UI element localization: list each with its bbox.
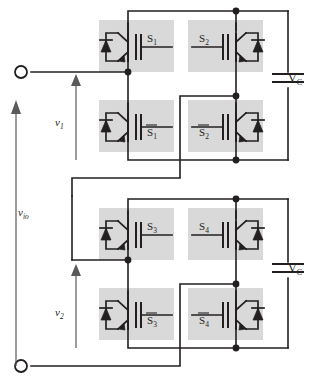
label-v1: v1 (55, 116, 64, 131)
node-lower-left-output (125, 257, 132, 264)
node-upper-right-bottom (233, 157, 240, 164)
node-upper-left-output (125, 69, 132, 76)
node-upper-right-top (233, 8, 240, 15)
v1-arrow-head (71, 74, 81, 86)
node-lower-right-top (233, 196, 240, 203)
node-upper-right-output (233, 93, 240, 100)
output-terminal-top-circle[interactable] (15, 66, 27, 78)
labels: S1 S2 S1 S2 S3 S4 S3 S4 VC VC v1 v2 vio (18, 32, 302, 329)
node-lower-right-output (233, 281, 240, 288)
vio-arrow-head (11, 100, 21, 114)
circuit-schematic: S1 S2 S1 S2 S3 S4 S3 S4 VC VC v1 v2 vio (0, 0, 318, 386)
label-v2: v2 (55, 306, 64, 321)
node-lower-right-bottom (233, 345, 240, 352)
output-terminal-bottom-circle[interactable] (15, 360, 27, 372)
device-box-s2 (188, 20, 263, 72)
device-box-s4 (188, 208, 263, 260)
circuit-diagram-canvas: S1 S2 S1 S2 S3 S4 S3 S4 VC VC v1 v2 vio (0, 0, 318, 386)
label-vio: vio (18, 206, 29, 221)
voltage-arrows (11, 74, 81, 366)
device-shading-boxes (99, 20, 263, 340)
v2-arrow-head (71, 264, 81, 276)
